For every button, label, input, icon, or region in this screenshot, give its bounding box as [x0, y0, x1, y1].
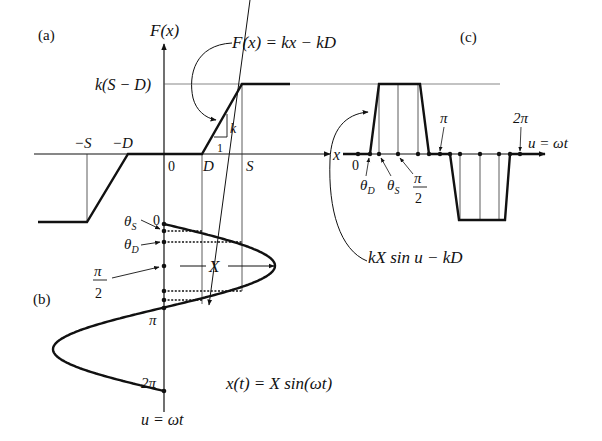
c-zero-label: 0 — [352, 158, 359, 173]
theta-d-label: θD — [124, 236, 139, 255]
linear-region-equation: F(x) = kx − kD — [231, 33, 337, 52]
axis-markers — [356, 152, 522, 156]
theta-d-pointer — [141, 242, 160, 245]
c-theta-d-pointer — [366, 158, 369, 176]
c-pi-pointer — [440, 127, 444, 151]
x-axis-label: x — [332, 146, 340, 163]
u-axis-label: u = ωt — [528, 135, 569, 151]
tick-d: D — [202, 158, 214, 174]
panel-b-label: (b) — [33, 291, 51, 308]
c-two-pi-label: 2π — [513, 110, 529, 126]
panel-b: (b) X 0 θS θD π — [33, 0, 332, 428]
half-pi-numerator: π — [94, 263, 102, 279]
sine-equation: x(t) = X sin(ωt) — [225, 374, 332, 393]
saturation-nonlinearity-diagram: (a) F(x) x k(S − D) k 1 −S −D 0 D S F(x)… — [0, 0, 602, 441]
tick-neg-s: −S — [74, 135, 92, 151]
panel-c: (c) u = ωt — [330, 29, 569, 267]
c-two-pi-pointer — [520, 127, 521, 151]
theta-s-label: θS — [124, 213, 136, 232]
c-theta-s-label: θS — [387, 177, 399, 196]
sine-equation-pointer — [209, 0, 250, 305]
equation-pointer — [192, 43, 232, 120]
tick-s: S — [246, 158, 254, 174]
output-waveform — [343, 84, 545, 220]
f-axis-label: F(x) — [149, 21, 180, 40]
output-equation: kX sin u − kD — [368, 248, 463, 267]
half-pi-denominator: 2 — [95, 286, 102, 301]
slope-run-label: 1 — [217, 141, 223, 155]
panel-c-label: (c) — [460, 29, 477, 46]
time-axis-label: u = ωt — [141, 411, 184, 428]
pi-label: π — [149, 312, 157, 328]
tick-zero: 0 — [168, 159, 175, 174]
saturation-level-label: k(S − D) — [95, 76, 151, 94]
c-theta-s-pointer — [381, 158, 391, 176]
slope-triangle — [214, 114, 227, 137]
half-pi-pointer — [112, 267, 159, 278]
c-half-pi-den: 2 — [415, 191, 422, 206]
output-guides — [379, 84, 499, 220]
panel-a-label: (a) — [38, 27, 55, 44]
two-pi-label: 2π — [141, 375, 157, 391]
c-half-pi-pointer — [400, 158, 413, 174]
c-theta-d-label: θD — [360, 177, 375, 196]
tick-neg-d: −D — [112, 135, 133, 151]
panel-a: (a) F(x) x k(S − D) k 1 −S −D 0 D S F(x)… — [34, 21, 500, 412]
c-pi-label: π — [440, 110, 448, 126]
c-half-pi-num: π — [414, 170, 422, 186]
